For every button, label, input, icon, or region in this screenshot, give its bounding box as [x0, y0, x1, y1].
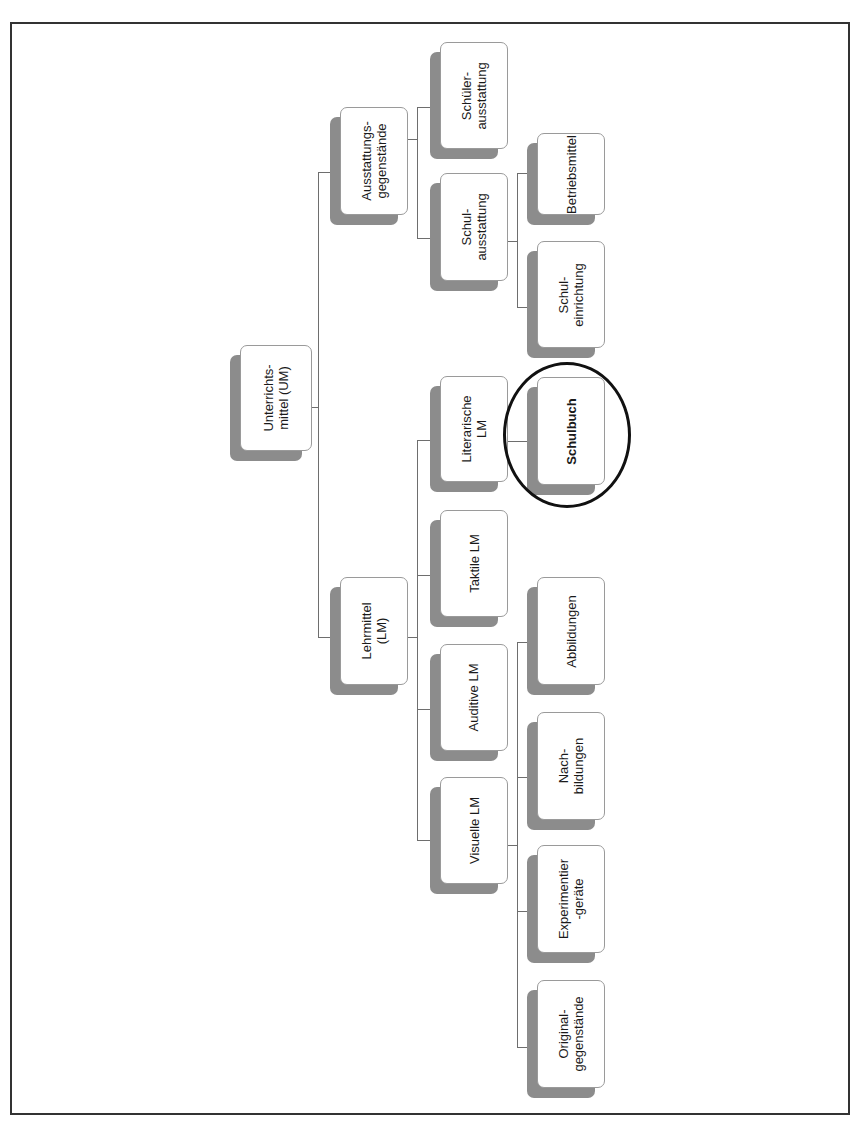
connector: [517, 173, 518, 307]
node-literarische-lm: Literarische LM: [440, 376, 508, 482]
node-auditive-lm: Auditive LM: [440, 644, 508, 751]
node-taktile-lm: Taktile LM: [440, 510, 508, 617]
node-originalgegenstaende: Original- gegenstände: [537, 980, 605, 1088]
node-label: Schul- einrichtung: [556, 263, 586, 327]
connector: [417, 440, 418, 840]
node-label: Schüler- ausstattung: [459, 62, 489, 129]
node-betriebsmittel: Betriebsmittel: [537, 133, 605, 215]
connector: [508, 241, 517, 242]
node-schuelerausstattung: Schüler- ausstattung: [440, 42, 508, 149]
node-schuleinrichtung: Schul- einrichtung: [537, 241, 605, 348]
connector: [517, 642, 518, 1048]
connector: [508, 845, 517, 846]
node-box: Auditive LM: [440, 644, 508, 751]
node-box: Schüler- ausstattung: [440, 42, 508, 149]
node-nachbildungen: Nach- bildungen: [537, 712, 605, 820]
node-label: Auditive LM: [467, 664, 482, 732]
node-label: Nach- bildungen: [556, 738, 586, 794]
node-box: Taktile LM: [440, 510, 508, 617]
node-visuelle-lm: Visuelle LM: [440, 777, 508, 884]
node-box: Schul- ausstattung: [440, 173, 508, 281]
node-box: Literarische LM: [440, 376, 508, 482]
highlight-ring: [503, 362, 631, 508]
node-label: Schul- ausstattung: [459, 193, 489, 260]
node-box: Nach- bildungen: [537, 712, 605, 820]
node-lehrmittel: Lehrmittel (LM): [340, 577, 408, 685]
node-box: Visuelle LM: [440, 777, 508, 884]
node-label: Experimentier -geräte: [556, 859, 586, 939]
node-label: Taktile LM: [467, 534, 482, 593]
node-label: Literarische LM: [459, 395, 489, 462]
node-schulausstattung: Schul- ausstattung: [440, 173, 508, 281]
node-box: Betriebsmittel: [537, 133, 605, 215]
node-box: Schul- einrichtung: [537, 241, 605, 348]
node-box: Lehrmittel (LM): [340, 577, 408, 685]
node-box: Ausstattungs- gegenstände: [340, 107, 408, 215]
node-label: Ausstattungs- gegenstände: [359, 121, 389, 201]
node-unterrichtsmittel: Unterrichts- mittel (UM): [240, 345, 312, 451]
node-ausstattungsgegenstaende: Ausstattungs- gegenstände: [340, 107, 408, 215]
connector: [408, 139, 417, 140]
node-label: Visuelle LM: [467, 797, 482, 864]
connector: [408, 637, 417, 638]
node-label: Unterrichts- mittel (UM): [261, 364, 291, 431]
node-box: Unterrichts- mittel (UM): [240, 345, 312, 451]
node-abbildungen: Abbildungen: [537, 577, 605, 685]
connector: [417, 107, 418, 238]
node-box: Experimentier -geräte: [537, 845, 605, 953]
node-label: Betriebsmittel: [564, 135, 579, 214]
node-experimentiergeraete: Experimentier -geräte: [537, 845, 605, 953]
node-box: Abbildungen: [537, 577, 605, 685]
node-label: Original- gegenstände: [556, 996, 586, 1071]
node-label: Abbildungen: [564, 595, 579, 667]
node-box: Original- gegenstände: [537, 980, 605, 1088]
node-label: Lehrmittel (LM): [359, 602, 389, 659]
connector: [318, 172, 319, 638]
